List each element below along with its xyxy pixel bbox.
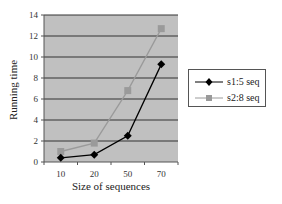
legend: s1:5 seq s2:8 seq (188, 69, 266, 107)
legend-item-s2: s2:8 seq (189, 91, 265, 105)
x-tick-label: 10 (56, 169, 66, 179)
y-tick-label: 8 (34, 73, 39, 83)
x-tick-label: 70 (157, 169, 167, 179)
plot-area (44, 15, 178, 162)
y-tick-label: 10 (29, 52, 39, 62)
square-marker-icon (195, 91, 223, 105)
y-tick-label: 14 (29, 10, 39, 20)
x-axis-ticks: 10205070 (44, 162, 178, 179)
square-marker-icon (91, 140, 98, 147)
x-axis-title: Size of sequences (72, 180, 150, 192)
square-marker-icon (124, 87, 131, 94)
y-tick-label: 6 (34, 94, 39, 104)
y-tick-label: 2 (34, 136, 39, 146)
y-tick-label: 12 (29, 31, 38, 41)
y-tick-label: 4 (34, 115, 39, 125)
y-axis-ticks: 02468101214 (29, 10, 44, 167)
legend-label-s2: s2:8 seq (227, 92, 260, 103)
y-tick-label: 0 (34, 157, 39, 167)
legend-item-s1: s1:5 seq (189, 75, 265, 89)
diamond-marker-icon (195, 75, 223, 89)
y-axis-title: Running time (7, 60, 19, 120)
legend-label-s1: s1:5 seq (227, 76, 260, 87)
x-tick-label: 20 (90, 169, 100, 179)
square-marker-icon (158, 25, 165, 32)
x-tick-label: 50 (123, 169, 133, 179)
